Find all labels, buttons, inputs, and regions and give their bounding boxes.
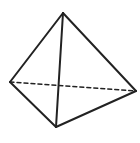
edge-left-bottom [10,82,56,127]
tetrahedron-edges [10,13,136,127]
edge-bottom-right [56,91,136,127]
tetrahedron-diagram [0,0,140,143]
edge-top-left [10,13,63,82]
hidden-edge-left-right [10,82,136,91]
edge-top-right [63,13,136,91]
tetrahedron-figure [0,0,140,143]
edge-top-bottom [56,13,63,127]
